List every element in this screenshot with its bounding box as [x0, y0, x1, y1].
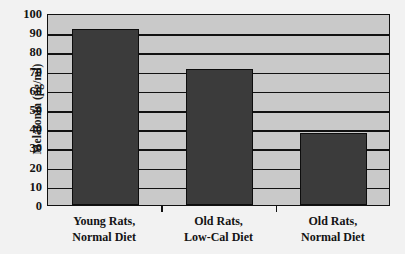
x-axis-category-label-line: Normal Diet — [276, 230, 390, 246]
bar-series — [48, 15, 389, 205]
y-axis-tick-label: 50 — [0, 104, 45, 116]
chart-figure: Melatonin (pg/ml) 0102030405060708090100… — [0, 0, 405, 254]
x-axis-category-label-line: Normal Diet — [47, 230, 161, 246]
x-axis-tick — [276, 206, 278, 212]
x-axis-category-label-line: Old Rats, — [161, 214, 275, 230]
x-axis-category-label: Young Rats,Normal Diet — [47, 214, 161, 245]
x-axis-category-label: Old Rats,Low-Cal Diet — [161, 214, 275, 245]
y-axis-tick-label: 30 — [0, 142, 45, 154]
y-axis-tick-label: 60 — [0, 85, 45, 97]
y-axis-tick-label: 40 — [0, 123, 45, 135]
y-axis-tick-label: 80 — [0, 46, 45, 58]
bar — [72, 29, 139, 205]
y-axis-tick-label: 100 — [0, 8, 45, 20]
bar — [186, 69, 253, 205]
x-axis-category-label: Old Rats,Normal Diet — [276, 214, 390, 245]
y-axis-tick-label: 0 — [0, 200, 45, 212]
x-axis-category-label-line: Old Rats, — [276, 214, 390, 230]
y-axis-tick-label: 10 — [0, 181, 45, 193]
plot-area — [47, 14, 390, 206]
x-axis-ticks — [47, 206, 390, 213]
x-axis-category-labels: Young Rats,Normal DietOld Rats,Low-Cal D… — [47, 214, 390, 254]
x-axis-category-label-line: Young Rats, — [47, 214, 161, 230]
x-axis-tick — [161, 206, 163, 212]
y-axis-tick-label: 70 — [0, 66, 45, 78]
y-axis-tick-label: 90 — [0, 27, 45, 39]
y-axis-tick-label: 20 — [0, 162, 45, 174]
y-axis-tick-labels: 0102030405060708090100 — [0, 0, 45, 254]
bar — [300, 133, 367, 205]
x-axis-category-label-line: Low-Cal Diet — [161, 230, 275, 246]
